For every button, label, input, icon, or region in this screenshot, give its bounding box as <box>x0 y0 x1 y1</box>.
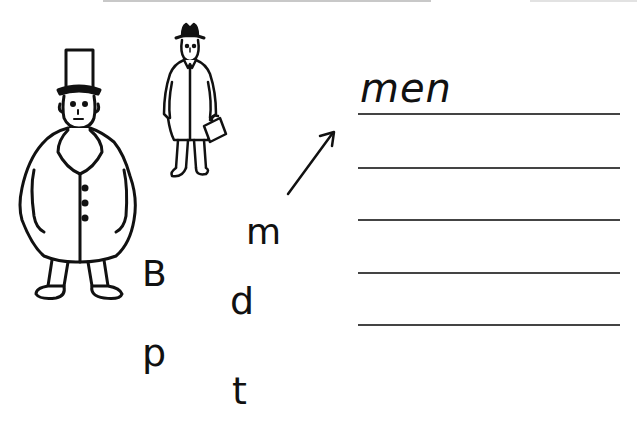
letter-p: p <box>142 334 166 372</box>
arrow-icon <box>284 128 340 198</box>
top-border-right <box>530 0 637 2</box>
man-in-top-hat-icon <box>14 48 144 303</box>
man-with-briefcase-icon <box>160 22 232 182</box>
letter-d: d <box>230 282 254 320</box>
writing-line-5[interactable] <box>358 324 620 326</box>
letter-t: t <box>232 372 247 410</box>
writing-line-1 <box>358 113 620 115</box>
writing-line-4[interactable] <box>358 272 620 274</box>
letter-b: B <box>142 256 167 292</box>
letter-m: m <box>246 214 281 250</box>
writing-line-2[interactable] <box>358 167 620 169</box>
top-border-left <box>103 0 431 2</box>
writing-line-3[interactable] <box>358 219 620 221</box>
example-word: men <box>360 68 452 108</box>
